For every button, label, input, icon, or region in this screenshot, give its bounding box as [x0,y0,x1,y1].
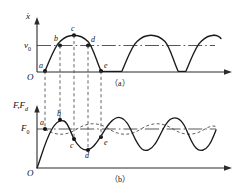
panel-a-x-axis [37,69,232,74]
panel-a-origin-label: O [27,73,34,82]
panel-b-origin-label: O [27,169,34,178]
panel-b [34,105,232,171]
panel-a-point-label-a: a [39,62,43,70]
panel-b-point-label-a: a [40,119,44,127]
panel-a-point-label-b: b [54,35,58,43]
panel-b-x-axis [37,165,232,170]
panel-b-point-label-d: d [85,152,89,160]
panel-a-point-label-c: c [71,25,75,33]
panel-b-caption: （b） [110,176,130,184]
panel-b-y-axis [34,105,39,168]
panel-a-velocity-curve [45,35,221,71]
panel-a-y-axis-label: ̇x [26,12,30,21]
panel-b-threshold-label: F0 [21,124,30,135]
panel-a-threshold-label: v0 [24,41,31,52]
panel-b-point-label-c: c [70,142,74,150]
panel-a-point-label-d: d [91,36,95,44]
panel-b-friction-force-curve [37,117,216,168]
panel-a-caption: （a） [110,80,130,88]
panel-b-point-label-e: e [104,139,108,147]
physics-figure [0,0,244,190]
panel-a-point-label-e: e [104,62,108,70]
panel-b-point-label-b: b [57,110,61,118]
panel-a [34,17,232,75]
panel-b-y-axis-label: F,Fd [13,101,28,112]
